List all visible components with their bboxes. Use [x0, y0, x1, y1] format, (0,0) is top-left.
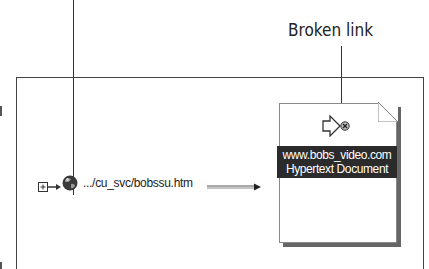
source-node[interactable]: .../cu_svc/bobssu.htm	[38, 175, 193, 191]
broken-link-icon	[321, 115, 351, 141]
document-label: www.bobs_video.com Hypertext Document	[277, 146, 397, 178]
broken-link-callout-label: Broken link	[288, 20, 373, 40]
globe-icon	[62, 175, 78, 191]
document-type: Hypertext Document	[277, 162, 397, 176]
folded-corner	[378, 102, 398, 126]
target-document-node[interactable]: www.bobs_video.com Hypertext Document	[279, 103, 397, 243]
document-title: www.bobs_video.com	[277, 148, 397, 162]
connector-arrow-icon	[48, 178, 62, 188]
left-edge-mark-top	[0, 106, 2, 116]
link-arrow	[207, 178, 262, 196]
left-edge-mark-bottom	[0, 262, 2, 269]
source-page-path[interactable]: .../cu_svc/bobssu.htm	[83, 176, 193, 190]
plus-box-icon[interactable]	[38, 178, 48, 188]
